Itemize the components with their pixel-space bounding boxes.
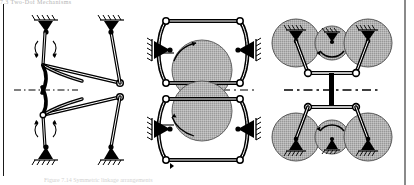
scanned-figure-page: 7.3 Two-Dof Mechanisms [0,0,414,185]
figure-panel-b: b [144,5,264,175]
four-bar-linkage-pair-drawing [12,5,140,175]
figure-area: a [4,5,404,175]
coupler-upper-a [42,65,120,93]
link-bottom-left-rocker-a [40,112,46,147]
panel-c-label: c [266,175,269,181]
figure-panel-c: c [266,5,398,175]
disc-cam-linkage-pair-drawing [144,5,264,175]
link-right-upper-a [111,32,120,83]
vertical-connector-c [329,73,334,107]
ground-pivot-top-right-a [98,15,124,35]
panel-a-label: a [12,175,15,181]
ground-pivot-bottom-left-a [32,144,58,165]
right-margin-rule [404,0,406,185]
motion-arrow-bottom-edge-b [170,163,174,169]
figure-panel-a: a [12,5,140,175]
figure-caption-text: Figure 7.14 Symmetric linkage arrangemen… [44,178,194,183]
disc-lower-b [172,81,232,141]
link-right-lower-a [111,97,120,147]
ground-pivot-bottom-right-a [98,144,124,165]
three-disc-gear-train-pair-drawing [266,5,398,175]
coupler-lower-a [42,87,120,115]
link-top-left-rocker-a [43,33,45,65]
